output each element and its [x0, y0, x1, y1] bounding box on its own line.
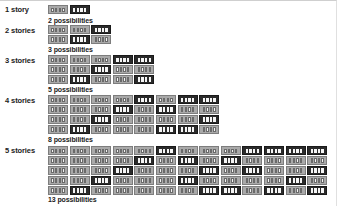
window-icon [203, 149, 205, 153]
window-icon [192, 188, 194, 192]
window-icon [257, 168, 259, 172]
window-icon [149, 178, 151, 182]
building-column [70, 5, 90, 14]
building-column [70, 55, 90, 84]
window-icon [253, 158, 255, 162]
window-icon [224, 178, 226, 182]
possibilities-count: 2 possibilities [48, 17, 93, 24]
building-column [242, 146, 262, 195]
window-icon [62, 77, 64, 81]
window-icon [62, 98, 64, 102]
window-icon [105, 37, 107, 41]
window-icon [210, 127, 212, 131]
window-icon [80, 28, 82, 32]
building-row [48, 55, 154, 84]
window-icon [181, 188, 183, 192]
window-icon [95, 117, 97, 121]
light-floor-block [70, 176, 90, 185]
window-icon [120, 188, 122, 192]
window-icon [62, 149, 64, 153]
window-icon [138, 117, 140, 121]
window-icon [98, 168, 100, 172]
window-icon [77, 117, 79, 121]
window-icon [59, 37, 61, 41]
window-icon [51, 37, 53, 41]
window-icon [249, 149, 251, 153]
window-icon [203, 178, 205, 182]
window-icon [84, 188, 86, 192]
row-label: 3 stories [5, 56, 35, 65]
window-icon [77, 37, 79, 41]
dark-floor-block [156, 105, 176, 114]
window-icon [105, 67, 107, 71]
window-icon [127, 158, 129, 162]
light-floor-block [48, 125, 68, 134]
window-icon [224, 149, 226, 153]
window-icon [123, 67, 125, 71]
window-icon [59, 58, 61, 62]
window-icon [102, 58, 104, 62]
window-icon [84, 67, 86, 71]
window-icon [105, 188, 107, 192]
window-icon [213, 127, 215, 131]
window-icon [73, 28, 75, 32]
light-floor-block [242, 156, 262, 165]
window-icon [181, 168, 183, 172]
window-icon [213, 168, 215, 172]
window-icon [120, 77, 122, 81]
light-floor-block [221, 166, 241, 175]
window-icon [95, 168, 97, 172]
window-icon [123, 178, 125, 182]
window-icon [296, 188, 298, 192]
light-floor-block [48, 55, 68, 64]
light-floor-block [48, 186, 68, 195]
window-icon [318, 158, 320, 162]
window-icon [59, 8, 61, 12]
window-icon [149, 127, 151, 131]
window-icon [62, 188, 64, 192]
window-icon [138, 188, 140, 192]
window-icon [120, 127, 122, 131]
window-icon [192, 117, 194, 121]
building-column [286, 146, 306, 195]
building-column [48, 95, 68, 134]
window-icon [163, 127, 165, 131]
row-label: 1 story [5, 5, 29, 14]
window-icon [116, 58, 118, 62]
window-icon [210, 158, 212, 162]
building-column [70, 95, 90, 134]
window-icon [123, 107, 125, 111]
window-icon [181, 107, 183, 111]
window-icon [77, 98, 79, 102]
dark-floor-block [70, 186, 90, 195]
window-icon [163, 149, 165, 153]
building-row [48, 25, 111, 44]
window-icon [188, 168, 190, 172]
building-column [199, 146, 219, 195]
window-icon [318, 178, 320, 182]
window-icon [95, 107, 97, 111]
building-column [48, 146, 68, 195]
possibilities-count: 13 possibilities [48, 196, 97, 203]
window-icon [105, 168, 107, 172]
window-icon [59, 188, 61, 192]
window-icon [275, 178, 277, 182]
light-floor-block [199, 176, 219, 185]
window-icon [73, 178, 75, 182]
window-icon [84, 58, 86, 62]
window-icon [51, 117, 53, 121]
window-icon [80, 107, 82, 111]
window-icon [51, 67, 53, 71]
light-floor-block [286, 186, 306, 195]
window-icon [51, 98, 53, 102]
window-icon [138, 149, 140, 153]
window-icon [120, 98, 122, 102]
window-icon [116, 107, 118, 111]
window-icon [249, 178, 251, 182]
window-icon [80, 127, 82, 131]
window-icon [77, 67, 79, 71]
building-column [70, 25, 90, 44]
dark-floor-block [178, 95, 198, 104]
window-icon [55, 158, 57, 162]
window-icon [300, 168, 302, 172]
